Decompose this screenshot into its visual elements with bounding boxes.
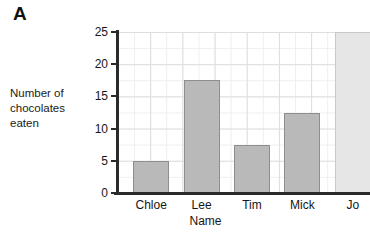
bar-tim bbox=[234, 145, 270, 193]
y-tick-mark-10 bbox=[111, 128, 118, 130]
plot-area bbox=[118, 32, 370, 193]
y-tick-label-20: 20 bbox=[68, 58, 108, 70]
y-tick-mark-25 bbox=[111, 31, 118, 33]
bar-chloe bbox=[133, 161, 169, 193]
x-category-label-jo: Jo bbox=[323, 199, 370, 211]
y-tick-label-25: 25 bbox=[68, 26, 108, 38]
bar-lee bbox=[184, 80, 220, 193]
y-axis-title-line-2: chocolates bbox=[10, 101, 102, 116]
bar-chart-figure: A Number of chocolates eaten 0510152025 … bbox=[0, 0, 370, 238]
bar-jo bbox=[335, 32, 370, 193]
y-tick-mark-20 bbox=[111, 63, 118, 65]
y-tick-label-10: 10 bbox=[68, 123, 108, 135]
y-tick-label-0: 0 bbox=[68, 187, 108, 199]
bar-mick bbox=[284, 113, 320, 194]
y-tick-label-5: 5 bbox=[68, 155, 108, 167]
panel-letter: A bbox=[13, 4, 27, 23]
y-tick-mark-0 bbox=[111, 192, 118, 194]
x-axis-title: Name bbox=[118, 215, 293, 227]
y-tick-mark-5 bbox=[111, 160, 118, 162]
x-axis-line bbox=[114, 192, 370, 195]
y-tick-label-15: 15 bbox=[68, 90, 108, 102]
y-axis-line bbox=[116, 30, 119, 195]
y-tick-mark-15 bbox=[111, 95, 118, 97]
